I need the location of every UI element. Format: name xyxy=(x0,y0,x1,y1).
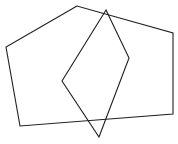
pentagon-shape xyxy=(6,6,173,126)
figure-canvas xyxy=(0,0,178,144)
polygon-figure xyxy=(0,0,178,144)
